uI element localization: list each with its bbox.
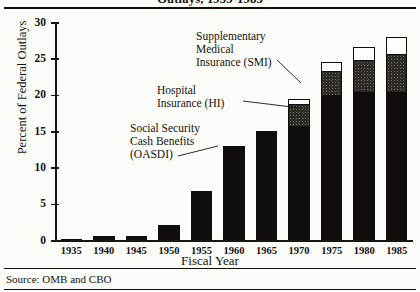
- bar-1960: [223, 146, 244, 240]
- annotation-hi-line-1: Hospital: [157, 84, 224, 97]
- annotation-hi-line-2: Insurance (HI): [157, 97, 224, 110]
- bar-segment-oasdi-1985: [386, 92, 407, 240]
- y-tick-0: 0: [51, 240, 59, 242]
- bar-segment-oasdi-1970: [288, 126, 309, 240]
- bar-segment-smi-1985: [386, 37, 407, 56]
- bar-1970: [288, 99, 309, 240]
- bar-1935: [61, 239, 82, 240]
- bar-1950: [158, 225, 179, 240]
- footer-rule: [4, 289, 416, 290]
- bar-1975: [321, 62, 342, 240]
- y-tick-30: 30: [51, 22, 59, 24]
- annotation-smi-line-1: Supplementary: [196, 30, 272, 43]
- y-tick-label-10: 10: [35, 162, 47, 174]
- figure-title-text: Outlays, 1935-1985: [0, 0, 420, 6]
- annotation-oasdi-line-2: Cash Benefits: [130, 135, 200, 148]
- y-axis-title: Percent of Federal Outlays: [15, 3, 30, 173]
- bar-segment-oasdi-1935: [61, 239, 82, 240]
- x-axis-title: Fiscal Year: [0, 253, 420, 269]
- annotation-smi-line-3: Insurance (SMI): [196, 56, 272, 69]
- chart-figure: Outlays, 1935-1985 Percent of Federal Ou…: [0, 0, 420, 292]
- bar-1955: [191, 191, 212, 240]
- annotation-oasdi-line-3: (OASDI): [130, 148, 200, 161]
- bar-segment-hi-1980: [353, 61, 374, 92]
- y-tick-label-30: 30: [35, 17, 47, 29]
- annotation-smi: Supplementary Medical Insurance (SMI): [196, 30, 272, 70]
- bottom-rule: [4, 268, 416, 269]
- y-tick-25: 25: [51, 58, 59, 60]
- top-rule: [4, 7, 416, 9]
- y-tick-label-5: 5: [40, 199, 46, 211]
- figure-title-clipped: Outlays, 1935-1985: [0, 0, 420, 6]
- bar-segment-smi-1970: [288, 99, 309, 105]
- annotation-hi: Hospital Insurance (HI): [157, 84, 224, 110]
- bar-segment-smi-1980: [353, 47, 374, 60]
- y-tick-5: 5: [51, 204, 59, 206]
- bar-segment-oasdi-1945: [126, 236, 147, 240]
- y-tick-10: 10: [51, 167, 59, 169]
- bar-segment-hi-1975: [321, 72, 342, 95]
- bar-segment-oasdi-1965: [256, 131, 277, 240]
- annotation-oasdi-line-1: Social Security: [130, 122, 200, 135]
- annotation-oasdi: Social Security Cash Benefits (OASDI): [130, 122, 200, 162]
- bar-1940: [93, 236, 114, 240]
- annotation-smi-line-2: Medical: [196, 43, 272, 56]
- bar-segment-smi-1975: [321, 62, 342, 72]
- source-note: Source: OMB and CBO: [6, 273, 111, 285]
- bar-segment-oasdi-1955: [191, 191, 212, 240]
- y-tick-label-20: 20: [35, 90, 47, 102]
- y-tick-label-0: 0: [40, 235, 46, 247]
- bar-segment-oasdi-1975: [321, 95, 342, 240]
- bar-segment-oasdi-1980: [353, 92, 374, 240]
- x-axis-line: [55, 240, 413, 242]
- bar-1945: [126, 236, 147, 240]
- y-tick-label-15: 15: [35, 126, 47, 138]
- y-tick-15: 15: [51, 131, 59, 133]
- bar-segment-oasdi-1950: [158, 225, 179, 240]
- bar-segment-oasdi-1940: [93, 236, 114, 240]
- bar-segment-oasdi-1960: [223, 146, 244, 240]
- bar-1965: [256, 131, 277, 240]
- bar-segment-hi-1985: [386, 55, 407, 91]
- bar-1980: [353, 47, 374, 240]
- bar-segment-hi-1970: [288, 105, 309, 126]
- y-tick-20: 20: [51, 95, 59, 97]
- y-tick-label-25: 25: [35, 53, 47, 65]
- bar-1985: [386, 37, 407, 240]
